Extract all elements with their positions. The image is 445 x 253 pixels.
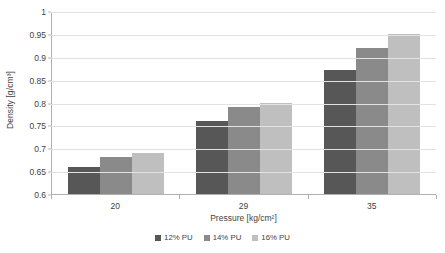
legend-label: 16% PU <box>261 234 290 242</box>
x-tick-label: 35 <box>367 201 376 211</box>
bar[interactable] <box>260 103 292 195</box>
y-tick-label: 0.6 <box>34 190 46 200</box>
bar[interactable] <box>132 153 164 194</box>
legend-label: 14% PU <box>213 234 242 242</box>
legend-item[interactable]: 12% PU <box>155 234 193 242</box>
y-axis-title-text: Density [g/cm³] <box>5 71 15 129</box>
bar[interactable] <box>196 121 228 194</box>
bar[interactable] <box>324 70 356 194</box>
y-tick-label: 0.7 <box>34 144 46 154</box>
y-tick-label: 0.65 <box>29 167 46 177</box>
bar[interactable] <box>228 107 260 194</box>
y-axis-title: Density [g/cm³] <box>2 0 18 200</box>
gridline <box>51 81 436 82</box>
y-axis-ticks: 0.60.650.70.750.80.850.90.951 <box>18 12 48 195</box>
y-tick-label: 0.85 <box>29 76 46 86</box>
x-axis-title: Pressure [kg/cm²] <box>51 213 436 223</box>
gridline <box>51 58 436 59</box>
x-tick-mark <box>308 195 309 199</box>
bar[interactable] <box>68 167 100 194</box>
legend-item[interactable]: 16% PU <box>252 234 290 242</box>
x-tick-mark <box>436 195 437 199</box>
y-tick-label: 0.75 <box>29 121 46 131</box>
chart-legend: 12% PU14% PU16% PU <box>0 234 445 242</box>
legend-item[interactable]: 14% PU <box>204 234 242 242</box>
bar[interactable] <box>100 157 132 194</box>
y-tick-label: 0.95 <box>29 30 46 40</box>
y-tick-label: 0.9 <box>34 53 46 63</box>
x-tick-label: 29 <box>239 201 248 211</box>
x-tick-mark <box>51 195 52 199</box>
gridline <box>51 35 436 36</box>
y-tick-label: 1 <box>41 7 46 17</box>
legend-swatch-icon <box>252 235 258 241</box>
gridline <box>51 172 436 173</box>
legend-label: 12% PU <box>164 234 193 242</box>
legend-swatch-icon <box>204 235 210 241</box>
gridline <box>51 126 436 127</box>
plot-area <box>51 12 436 195</box>
gridline <box>51 104 436 105</box>
x-tick-label: 20 <box>110 201 119 211</box>
x-tick-mark <box>179 195 180 199</box>
legend-swatch-icon <box>155 235 161 241</box>
y-tick-label: 0.8 <box>34 99 46 109</box>
bar-chart: Density [g/cm³] 0.60.650.70.750.80.850.9… <box>0 0 445 253</box>
x-axis-ticks: 202935 <box>51 195 436 213</box>
gridline <box>51 149 436 150</box>
gridline <box>51 12 436 13</box>
